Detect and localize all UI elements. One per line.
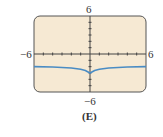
x-min-label: −6 bbox=[20, 49, 32, 60]
panel-label: (E) bbox=[82, 111, 97, 122]
y-min-label: −6 bbox=[84, 96, 96, 107]
y-max-label: 6 bbox=[86, 4, 92, 15]
x-max-label: 6 bbox=[148, 49, 154, 60]
